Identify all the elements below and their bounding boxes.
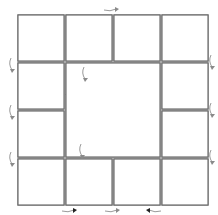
tile[interactable]: [18, 15, 64, 61]
tile-border: [114, 159, 160, 205]
arrow-down-icon: [210, 66, 215, 70]
arrow-curve: [210, 103, 212, 115]
tile-border: [162, 63, 208, 109]
arrow-down-icon: [10, 116, 15, 120]
arrow-right-icon: [116, 208, 120, 213]
tile[interactable]: [18, 159, 64, 205]
tile-border: [66, 15, 112, 61]
arrow-curve: [105, 210, 117, 212]
arrow-curve: [104, 9, 116, 11]
arrow-left-2[interactable]: [10, 105, 15, 120]
arrow-down-icon: [10, 163, 15, 167]
arrow-right-2[interactable]: [210, 103, 215, 118]
tile[interactable]: [18, 63, 64, 109]
center-block-border: [66, 63, 160, 157]
tile[interactable]: [114, 159, 160, 205]
arrow-left-3[interactable]: [10, 152, 15, 167]
arrow-curve: [10, 105, 12, 117]
tile[interactable]: [114, 15, 160, 61]
arrow-bottom-3[interactable]: [146, 208, 161, 213]
tile[interactable]: [162, 159, 208, 205]
tile-border: [114, 15, 160, 61]
arrow-curve: [210, 55, 212, 67]
tile-border: [162, 15, 208, 61]
arrow-top[interactable]: [104, 7, 119, 12]
arrow-right-3[interactable]: [210, 150, 215, 165]
arrow-left-1[interactable]: [10, 58, 15, 73]
tile-border: [18, 159, 64, 205]
arrow-curve: [210, 150, 212, 162]
arrow-right-1[interactable]: [210, 55, 215, 70]
tile-border: [66, 159, 112, 205]
tile[interactable]: [66, 159, 112, 205]
arrow-right-icon: [115, 7, 119, 12]
tile[interactable]: [66, 15, 112, 61]
tile[interactable]: [162, 15, 208, 61]
tile[interactable]: [162, 63, 208, 109]
tile-border: [18, 63, 64, 109]
arrow-down-icon: [10, 69, 15, 73]
arrow-curve: [149, 210, 161, 212]
tile-border: [18, 111, 64, 157]
center-block[interactable]: [66, 63, 160, 157]
arrow-curve: [62, 210, 74, 212]
arrow-curve: [10, 58, 12, 70]
puzzle-board: [0, 0, 218, 215]
tile[interactable]: [162, 111, 208, 157]
arrow-down-icon: [210, 161, 215, 165]
arrow-curve: [10, 152, 12, 164]
arrow-left-icon: [146, 208, 150, 213]
arrow-down-icon: [210, 114, 215, 118]
tile-border: [18, 15, 64, 61]
tile-border: [162, 159, 208, 205]
arrow-bottom-1[interactable]: [62, 208, 77, 213]
tile-border: [162, 111, 208, 157]
arrow-bottom-2[interactable]: [105, 208, 120, 213]
tile[interactable]: [18, 111, 64, 157]
arrow-right-icon: [73, 208, 77, 213]
